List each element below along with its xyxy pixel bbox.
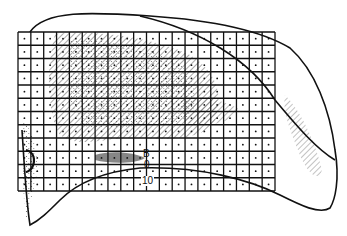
point-b-label: B bbox=[143, 149, 150, 159]
point-zero-label: 0 bbox=[144, 160, 150, 170]
scale-value-label: 10 bbox=[141, 176, 154, 186]
specimen-drawing bbox=[0, 0, 347, 236]
specimen-figure: B 0 10 bbox=[0, 0, 347, 236]
